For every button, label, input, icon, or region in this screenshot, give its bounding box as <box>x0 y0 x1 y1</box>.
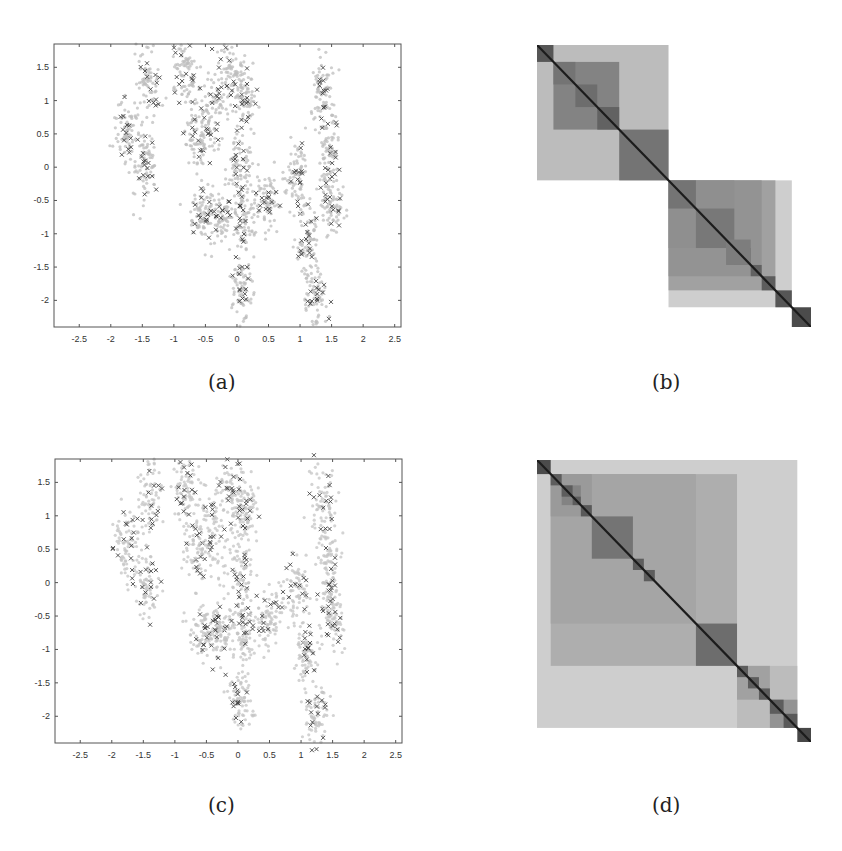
similarity-matrix-b-canvas <box>537 45 811 327</box>
y-tick-label: -1.5 <box>33 262 49 272</box>
caption-b: (b) <box>652 370 680 394</box>
x-tick-label: 2.5 <box>388 334 401 344</box>
y-tick-label: -0.5 <box>34 611 50 621</box>
x-tick-label: 1.5 <box>325 334 338 344</box>
x-tick-label: -1.5 <box>135 334 151 344</box>
x-tick-label: 2 <box>361 334 366 344</box>
y-tick-label: -1 <box>41 229 49 239</box>
x-tick-label: 1 <box>298 334 303 344</box>
x-tick-label: -2.5 <box>72 750 88 760</box>
similarity-matrix-d-canvas <box>537 460 811 742</box>
caption-a: (a) <box>208 370 236 394</box>
plot-points <box>111 453 347 752</box>
x-tick-label: 2.5 <box>389 750 402 760</box>
x-axis: -2.5-2-1.5-1-0.500.511.522.5 <box>72 459 401 760</box>
plot-points <box>108 42 348 327</box>
y-tick-label: 1.5 <box>37 477 50 487</box>
plot-frame <box>55 459 402 743</box>
x-tick-label: -1 <box>170 334 178 344</box>
y-tick-label: 0.5 <box>36 129 49 139</box>
x-tick-label: -2 <box>108 750 116 760</box>
y-tick-label: -1.5 <box>34 678 50 688</box>
x-tick-label: -1 <box>171 750 179 760</box>
x-tick-label: -0.5 <box>199 750 215 760</box>
x-tick-label: -0.5 <box>198 334 214 344</box>
y-tick-label: 0 <box>44 162 49 172</box>
x-tick-label: 1.5 <box>326 750 339 760</box>
x-tick-label: 0 <box>234 334 239 344</box>
caption-d: (d) <box>652 793 680 817</box>
x-tick-label: -1.5 <box>136 750 152 760</box>
x-tick-label: 1 <box>299 750 304 760</box>
x-tick-label: 0.5 <box>263 750 276 760</box>
x-tick-label: 0 <box>235 750 240 760</box>
y-tick-label: 0 <box>45 578 50 588</box>
y-axis: 1.510.50-0.5-1-1.5-2 <box>33 62 401 305</box>
x-tick-label: -2.5 <box>71 334 87 344</box>
scatter-plot-a-canvas: -2.5-2-1.5-1-0.500.511.522.51.510.50-0.5… <box>0 0 420 345</box>
similarity-matrix-b <box>537 45 811 327</box>
y-tick-label: 1 <box>44 96 49 106</box>
y-axis: 1.510.50-0.5-1-1.5-2 <box>34 477 402 721</box>
x-tick-label: 2 <box>362 750 367 760</box>
y-tick-label: -2 <box>41 295 49 305</box>
y-tick-label: 1.5 <box>36 62 49 72</box>
x-axis: -2.5-2-1.5-1-0.500.511.522.5 <box>71 44 400 344</box>
y-tick-label: -1 <box>42 644 50 654</box>
scatter-plot-c: -2.5-2-1.5-1-0.500.511.522.51.510.50-0.5… <box>0 415 420 760</box>
x-tick-label: 0.5 <box>262 334 275 344</box>
scatter-plot-c-canvas: -2.5-2-1.5-1-0.500.511.522.51.510.50-0.5… <box>0 415 420 760</box>
y-tick-label: -2 <box>42 711 50 721</box>
y-tick-label: -0.5 <box>33 195 49 205</box>
x-tick-label: -2 <box>107 334 115 344</box>
caption-c: (c) <box>208 793 235 817</box>
y-tick-label: 0.5 <box>37 544 50 554</box>
y-tick-label: 1 <box>45 511 50 521</box>
scatter-plot-a: -2.5-2-1.5-1-0.500.511.522.51.510.50-0.5… <box>0 0 420 345</box>
similarity-matrix-d <box>537 460 811 742</box>
